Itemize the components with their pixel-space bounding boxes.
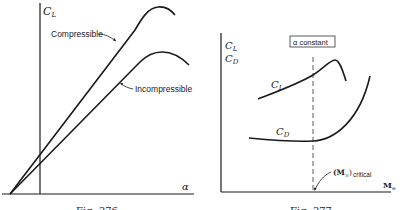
- cl-curve-label: CL: [271, 79, 284, 92]
- incompressible-leader: [121, 84, 133, 89]
- figure-377: CL CD α constant CL CD (M∞)critical M∞ F…: [221, 33, 396, 210]
- y-axis-label-cd: CD: [225, 53, 239, 66]
- y-axis-label: CL: [43, 5, 56, 19]
- cd-curve: [249, 76, 370, 141]
- critical-mach-label: (M∞)critical: [333, 168, 372, 178]
- alpha-constant-label: α constant: [293, 38, 329, 47]
- diagram-canvas: CL α Compressible Incompressible Fig. 37…: [0, 0, 405, 210]
- compressible-label: Compressible: [51, 29, 103, 39]
- critical-leader: [315, 172, 331, 190]
- figure-caption: Fig. 376: [76, 205, 118, 210]
- y-axis-label-cl: CL: [225, 40, 238, 53]
- x-axis-label: α: [182, 181, 189, 192]
- incompressible-label: Incompressible: [135, 84, 192, 94]
- incompressible-curve: [10, 52, 189, 194]
- x-axis-label: M∞: [383, 180, 396, 191]
- cd-curve-label: CD: [276, 126, 290, 139]
- figure-caption: Fig. 377: [290, 205, 332, 210]
- figure-376: CL α Compressible Incompressible Fig. 37…: [2, 3, 194, 210]
